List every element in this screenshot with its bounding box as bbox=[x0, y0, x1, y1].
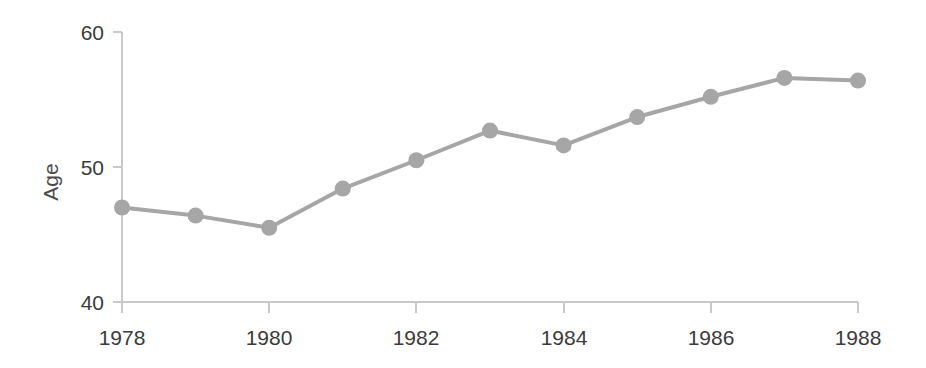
x-tick-label-1980: 1980 bbox=[246, 326, 293, 349]
data-point-1988 bbox=[850, 73, 866, 89]
data-point-1985 bbox=[629, 109, 645, 125]
x-tick-label-1978: 1978 bbox=[99, 326, 146, 349]
data-point-1982 bbox=[408, 152, 424, 168]
x-tick-label-1988: 1988 bbox=[835, 326, 882, 349]
chart-background bbox=[0, 0, 926, 368]
y-axis-title: Age bbox=[39, 163, 62, 200]
chart-canvas: 60 50 40 Age 1978 1980 1982 1984 1986 19… bbox=[0, 0, 926, 368]
data-point-1983 bbox=[482, 123, 498, 139]
x-tick-label-1986: 1986 bbox=[688, 326, 735, 349]
line-chart: 60 50 40 Age 1978 1980 1982 1984 1986 19… bbox=[0, 0, 926, 368]
data-point-1979 bbox=[188, 208, 204, 224]
y-tick-label-60: 60 bbox=[81, 21, 104, 44]
data-point-1980 bbox=[261, 220, 277, 236]
y-tick-label-50: 50 bbox=[81, 156, 104, 179]
x-tick-label-1982: 1982 bbox=[393, 326, 440, 349]
data-point-1978 bbox=[114, 200, 130, 216]
data-point-1987 bbox=[776, 70, 792, 86]
data-point-1986 bbox=[703, 89, 719, 105]
data-point-1981 bbox=[335, 181, 351, 197]
y-tick-label-40: 40 bbox=[81, 291, 104, 314]
x-tick-label-1984: 1984 bbox=[541, 326, 588, 349]
data-point-1984 bbox=[556, 137, 572, 153]
